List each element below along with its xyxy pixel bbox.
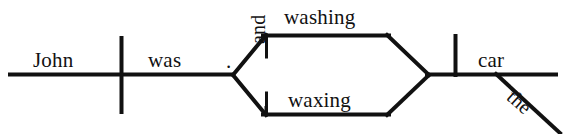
period-label: . bbox=[226, 51, 231, 72]
subject-label: John bbox=[33, 50, 73, 71]
compound-verb-2-label: waxing bbox=[288, 90, 351, 111]
verb-label: was bbox=[148, 50, 181, 71]
merge-lower-arm bbox=[387, 75, 429, 115]
object-label: car bbox=[478, 50, 504, 71]
fork-lower-arm bbox=[233, 75, 266, 115]
merge-upper-arm bbox=[387, 35, 429, 75]
sentence-diagram: John was . and washing waxing car the bbox=[0, 0, 564, 134]
compound-verb-1-label: washing bbox=[284, 7, 355, 28]
conjunction-label: and bbox=[248, 15, 268, 44]
